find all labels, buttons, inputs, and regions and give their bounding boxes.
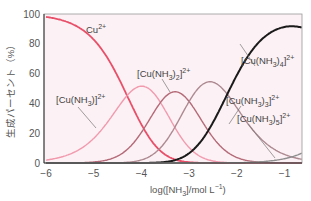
x-axis-title: log([NH3]/mol L−1) bbox=[150, 183, 226, 197]
y-tick: 100 bbox=[23, 9, 40, 20]
y-tick: 20 bbox=[29, 128, 41, 139]
series-label: [Cu(NH3)5]2+ bbox=[237, 112, 290, 126]
x-tick: −1 bbox=[279, 168, 291, 179]
x-tick: −3 bbox=[183, 168, 195, 179]
x-tick-labels: −6−5−4−3−2−1 bbox=[40, 168, 290, 179]
series-label: [Cu(NH3)3]2+ bbox=[226, 94, 279, 108]
x-tick: −6 bbox=[40, 168, 52, 179]
x-tick: −4 bbox=[136, 168, 148, 179]
y-axis-title: 生成パーセント（%） bbox=[5, 40, 16, 138]
y-tick-labels: 020406080100 bbox=[23, 9, 40, 169]
series-label: [Cu(NH3)2]2+ bbox=[137, 67, 190, 81]
y-tick: 60 bbox=[29, 68, 41, 79]
x-tick: −5 bbox=[88, 168, 100, 179]
y-tick: 0 bbox=[34, 158, 40, 169]
series-label: [Cu(NH3)4]2+ bbox=[241, 54, 294, 68]
x-tick: −2 bbox=[231, 168, 243, 179]
y-tick: 40 bbox=[29, 98, 41, 109]
y-tick: 80 bbox=[29, 38, 41, 49]
species-distribution-chart: −6−5−4−3−2−1 020406080100 Cu2+[Cu(NH3)]2… bbox=[0, 0, 311, 201]
